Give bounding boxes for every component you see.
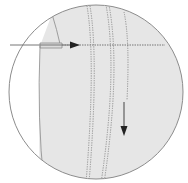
sewing-diagram — [0, 0, 188, 183]
